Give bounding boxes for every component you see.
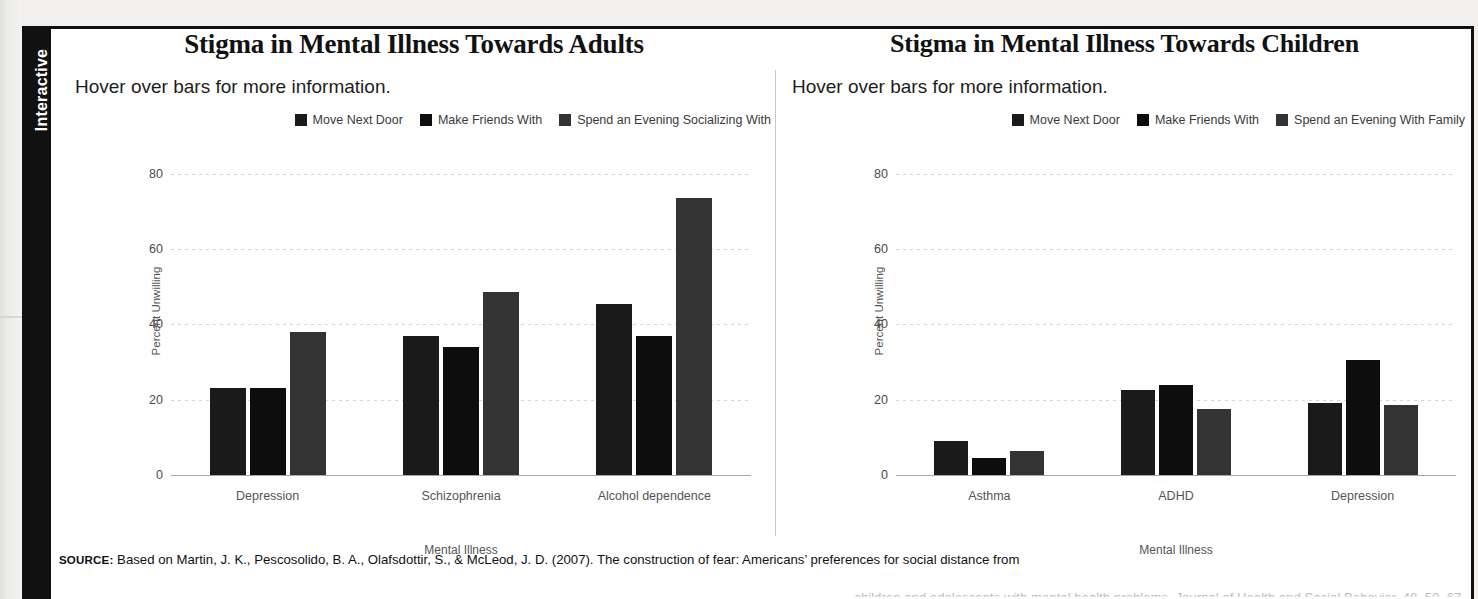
bar[interactable] xyxy=(483,292,519,475)
legend-label: Spend an Evening Socializing With xyxy=(577,113,771,127)
y-axis-tick-label: 60 xyxy=(125,242,163,256)
y-axis-tick-label: 60 xyxy=(850,242,888,256)
bar[interactable] xyxy=(636,336,672,475)
y-axis-tick-label: 40 xyxy=(125,317,163,331)
bar[interactable] xyxy=(210,388,246,475)
page-title-children: Stigma in Mental Illness Towards Childre… xyxy=(778,29,1471,59)
legend-swatch-icon xyxy=(1137,114,1149,126)
bar-group xyxy=(596,155,712,475)
bar[interactable] xyxy=(1384,405,1418,475)
y-axis-tick-label: 80 xyxy=(125,167,163,181)
x-axis-line xyxy=(171,475,751,476)
bar[interactable] xyxy=(443,347,479,475)
chart-subtitle-children: Hover over bars for more information. xyxy=(792,76,1108,98)
legend-item[interactable]: Spend an Evening Socializing With xyxy=(559,113,771,127)
legend-item[interactable]: Make Friends With xyxy=(420,113,542,127)
page-seam xyxy=(0,316,22,318)
legend-label: Move Next Door xyxy=(1030,113,1120,127)
y-axis-tick-label: 20 xyxy=(850,393,888,407)
y-axis-tick-label: 80 xyxy=(850,167,888,181)
plot-area-children: Percent Unwilling Mental Illness 0204060… xyxy=(896,155,1456,475)
y-axis-label: Percent Unwilling xyxy=(873,251,885,371)
legend-label: Move Next Door xyxy=(313,113,403,127)
legend-item[interactable]: Move Next Door xyxy=(1012,113,1120,127)
bar[interactable] xyxy=(934,441,968,475)
source-text: Based on Martin, J. K., Pescosolido, B. … xyxy=(113,552,1019,567)
legend-item[interactable]: Make Friends With xyxy=(1137,113,1259,127)
bar-group xyxy=(1308,155,1418,475)
chart-panel-adults: Stigma in Mental Illness Towards Adults … xyxy=(51,29,777,541)
page-title-adults: Stigma in Mental Illness Towards Adults xyxy=(51,29,777,60)
legend-swatch-icon xyxy=(1012,114,1024,126)
charts-row: Stigma in Mental Illness Towards Adults … xyxy=(51,29,1471,541)
legend-label: Make Friends With xyxy=(1155,113,1259,127)
bar[interactable] xyxy=(1159,385,1193,475)
interactive-sidebar-tab[interactable]: Interactive xyxy=(22,26,51,599)
chart-subtitle-adults: Hover over bars for more information. xyxy=(75,76,391,98)
y-axis-tick-label: 40 xyxy=(850,317,888,331)
bar[interactable] xyxy=(250,388,286,475)
x-axis-group-label: Alcohol dependence xyxy=(598,489,711,503)
chart-panel-children: Stigma in Mental Illness Towards Childre… xyxy=(778,29,1471,541)
bar[interactable] xyxy=(1197,409,1231,475)
bar-group xyxy=(1121,155,1231,475)
x-axis-group-label: Schizophrenia xyxy=(421,489,500,503)
bar[interactable] xyxy=(1346,360,1380,475)
bar[interactable] xyxy=(1308,403,1342,475)
figure-content: Stigma in Mental Illness Towards Adults … xyxy=(51,29,1471,596)
y-axis-tick-label: 20 xyxy=(125,393,163,407)
bar[interactable] xyxy=(676,198,712,475)
bar[interactable] xyxy=(1121,390,1155,475)
x-axis-line xyxy=(896,475,1456,476)
plot-area-adults: Percent Unwilling Mental Illness 0204060… xyxy=(171,155,751,475)
bar-groups xyxy=(896,155,1456,475)
legend-children: Move Next Door Make Friends With Spend a… xyxy=(1012,113,1465,127)
x-axis-group-label: Depression xyxy=(236,489,299,503)
legend-swatch-icon xyxy=(559,114,571,126)
bar-groups xyxy=(171,155,751,475)
legend-label: Spend an Evening With Family xyxy=(1294,113,1465,127)
y-axis-label: Percent Unwilling xyxy=(150,251,162,371)
legend-swatch-icon xyxy=(1276,114,1288,126)
bar-group xyxy=(210,155,326,475)
source-note: SOURCE: Based on Martin, J. K., Pescosol… xyxy=(59,551,1465,569)
bar[interactable] xyxy=(1010,451,1044,475)
legend-item[interactable]: Spend an Evening With Family xyxy=(1276,113,1465,127)
legend-label: Make Friends With xyxy=(438,113,542,127)
bar[interactable] xyxy=(403,336,439,475)
bar-group xyxy=(403,155,519,475)
legend-swatch-icon xyxy=(420,114,432,126)
y-axis-tick-label: 0 xyxy=(850,468,888,482)
page-left-edge xyxy=(0,0,22,599)
x-axis-group-label: Depression xyxy=(1331,489,1394,503)
bar[interactable] xyxy=(596,304,632,475)
legend-item[interactable]: Move Next Door xyxy=(295,113,403,127)
interactive-tab-label: Interactive xyxy=(33,30,51,150)
bar[interactable] xyxy=(972,458,1006,475)
y-axis-tick-label: 0 xyxy=(125,468,163,482)
source-tag: SOURCE: xyxy=(59,554,113,566)
legend-swatch-icon xyxy=(295,114,307,126)
bar-group xyxy=(934,155,1044,475)
x-axis-group-label: ADHD xyxy=(1158,489,1193,503)
legend-adults: Move Next Door Make Friends With Spend a… xyxy=(295,113,771,127)
bar[interactable] xyxy=(290,332,326,475)
x-axis-group-label: Asthma xyxy=(968,489,1010,503)
